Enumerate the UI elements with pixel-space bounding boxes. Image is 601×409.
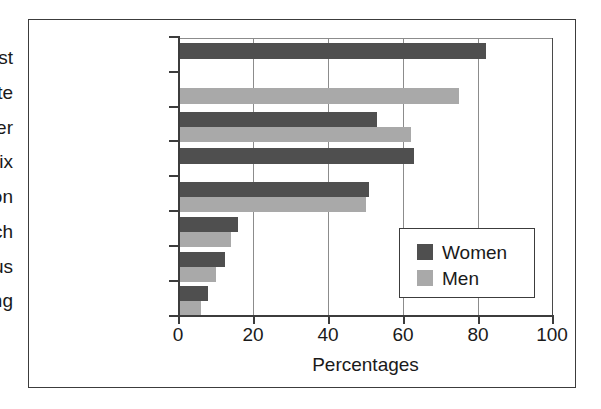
y-tick-3: [169, 140, 178, 142]
bar-breast-women: [178, 43, 486, 59]
legend-label-men: Men: [442, 269, 479, 288]
category-label-cervix: Cervix: [0, 152, 13, 171]
legend-entry-men: Men: [417, 266, 479, 290]
x-tick-80: [478, 316, 480, 324]
bar-prostate-men: [178, 88, 459, 104]
plot-top-border: [178, 38, 553, 39]
bar-cervix-women: [178, 148, 414, 164]
x-tick-label-40: 40: [298, 325, 358, 344]
y-tick-1: [169, 71, 178, 73]
bar-bladder-men: [178, 127, 411, 142]
y-tick-0: [169, 36, 178, 38]
gridline-100: [552, 38, 554, 315]
x-axis-title: Percentages: [178, 355, 553, 374]
category-label-lung: Lung: [0, 291, 13, 310]
x-tick-label-0: 0: [148, 325, 208, 344]
x-tick-20: [253, 316, 255, 324]
category-label-stomach: Stomach: [0, 222, 13, 241]
x-tick-label-60: 60: [373, 325, 433, 344]
chart-figure: Breast Prostate Bladder Cervix Colon Sto…: [0, 0, 601, 409]
x-tick-60: [403, 316, 405, 324]
bar-colon-women: [178, 182, 369, 197]
bar-colon-men: [178, 197, 366, 212]
y-tick-2: [169, 106, 178, 108]
y-tick-8: [169, 315, 178, 317]
x-tick-label-20: 20: [223, 325, 283, 344]
bar-oesophagus-women: [178, 252, 225, 267]
x-tick-label-100: 100: [522, 325, 582, 344]
legend-swatch-women-icon: [417, 244, 433, 260]
bar-lung-men: [178, 301, 201, 316]
y-axis-line: [178, 36, 180, 317]
x-axis-line: [178, 315, 554, 317]
legend-swatch-men-icon: [417, 270, 433, 286]
gridline-40: [328, 38, 329, 315]
x-tick-label-80: 80: [448, 325, 508, 344]
bar-lung-women: [178, 286, 208, 301]
x-tick-100: [552, 316, 554, 324]
bar-stomach-women: [178, 217, 238, 232]
y-tick-5: [169, 210, 178, 212]
legend-label-women: Women: [442, 243, 507, 262]
category-label-oesophagus: Oesophagus: [0, 257, 13, 276]
category-label-breast: Breast: [0, 48, 13, 67]
x-tick-0: [178, 316, 180, 324]
y-tick-4: [169, 175, 178, 177]
gridline-20: [253, 38, 254, 315]
category-label-colon: Colon: [0, 187, 13, 206]
legend-entry-women: Women: [417, 240, 507, 264]
bar-stomach-men: [178, 232, 231, 247]
x-tick-40: [328, 316, 330, 324]
y-tick-7: [169, 280, 178, 282]
category-label-bladder: Bladder: [0, 118, 13, 137]
legend-box: Women Men: [399, 228, 535, 298]
y-tick-6: [169, 245, 178, 247]
bar-bladder-women: [178, 112, 377, 127]
bar-oesophagus-men: [178, 267, 216, 282]
category-label-prostate: Prostate: [0, 83, 13, 102]
